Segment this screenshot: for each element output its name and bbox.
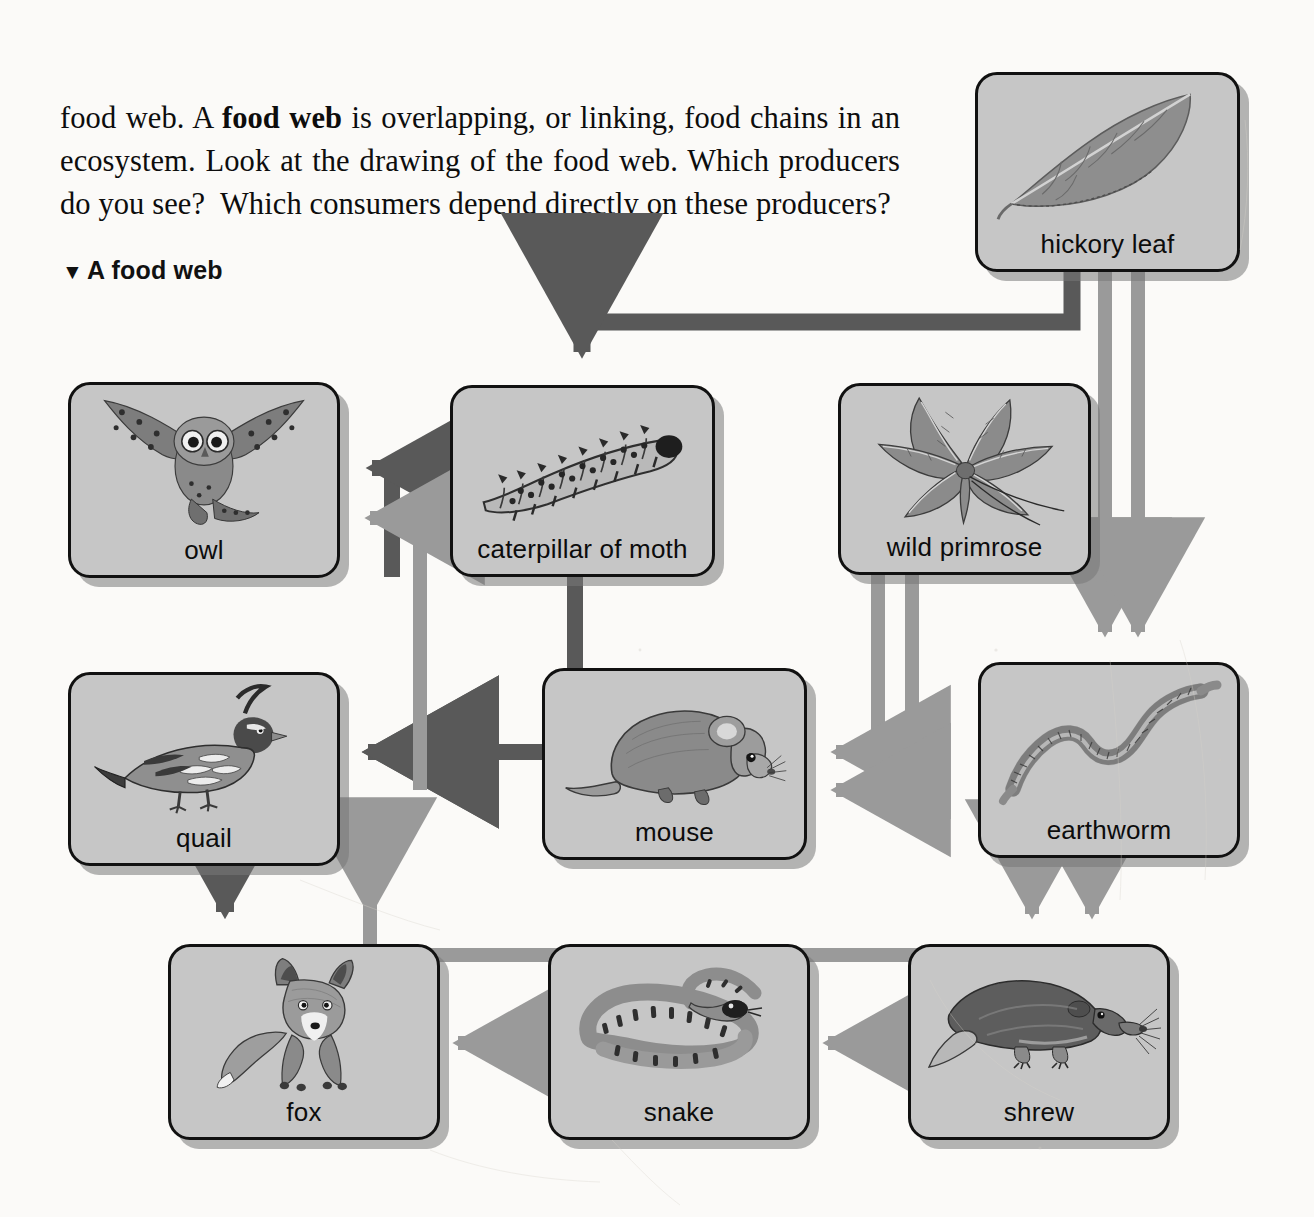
mouse-icon [551, 677, 798, 813]
node-earthworm[interactable]: earthworm [978, 662, 1240, 858]
node-label: hickory leaf [978, 229, 1237, 260]
node-label: fox [171, 1097, 437, 1128]
node-label: wild primrose [841, 532, 1088, 563]
node-label: caterpillar of moth [453, 534, 712, 565]
node-label: owl [71, 535, 337, 566]
owl-icon [77, 391, 331, 531]
node-owl[interactable]: owl [68, 382, 340, 578]
node-label: snake [551, 1097, 807, 1128]
node-shrew[interactable]: shrew [908, 944, 1170, 1140]
node-caterpillar-of-moth[interactable]: caterpillar of moth [450, 385, 715, 577]
quail-icon [77, 681, 331, 819]
node-wild-primrose[interactable]: wild primrose [838, 383, 1091, 575]
node-fox[interactable]: fox [168, 944, 440, 1140]
fox-icon [177, 953, 431, 1093]
node-label: mouse [545, 817, 804, 848]
snake-icon [557, 953, 801, 1093]
shrew-icon [917, 953, 1161, 1093]
edge-hickoryleaf-to-caterpillar [582, 272, 1072, 352]
node-label: quail [71, 823, 337, 854]
earthworm-icon [987, 671, 1231, 811]
caterpillar-icon [459, 394, 706, 530]
node-hickory-leaf[interactable]: hickory leaf [975, 72, 1240, 272]
node-mouse[interactable]: mouse [542, 668, 807, 860]
wild-primrose-icon [847, 392, 1082, 528]
hickory-leaf-icon [984, 81, 1231, 225]
edge-wildprimrose-to-mouse-a [836, 575, 878, 752]
node-label: shrew [911, 1097, 1167, 1128]
node-snake[interactable]: snake [548, 944, 810, 1140]
node-label: earthworm [981, 815, 1237, 846]
node-quail[interactable]: quail [68, 672, 340, 866]
textbook-page: food web. A food web is overlapping, or … [0, 0, 1314, 1217]
